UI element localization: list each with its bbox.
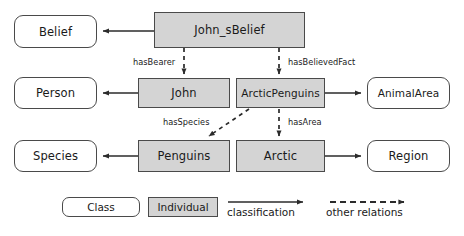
node-species-label: Species: [33, 149, 78, 163]
node-region[interactable]: Region: [367, 140, 450, 172]
node-animalarea-label: AnimalArea: [378, 87, 440, 99]
node-person[interactable]: Person: [14, 77, 97, 109]
node-belief-label: Belief: [39, 25, 72, 39]
node-arcticpenguins-label: ArcticPenguins: [241, 87, 320, 99]
edge-label-hasspecies: hasSpecies: [163, 117, 209, 127]
node-john[interactable]: John: [138, 78, 230, 108]
legend-individual-box: Individual: [148, 197, 218, 217]
edge-label-hasarea: hasArea: [288, 117, 322, 127]
node-arctic-label: Arctic: [264, 149, 297, 163]
node-john-label: John: [171, 86, 196, 100]
edge-label-hasbearer: hasBearer: [133, 57, 175, 67]
node-arcticpenguins[interactable]: ArcticPenguins: [236, 78, 325, 108]
node-john_sbelief[interactable]: John_sBelief: [154, 12, 305, 48]
edge-arcticpenguins-to-penguins: [209, 109, 249, 136]
node-region-label: Region: [389, 149, 429, 163]
node-penguins[interactable]: Penguins: [138, 140, 230, 172]
node-belief[interactable]: Belief: [14, 15, 97, 48]
diagram-canvas: Belief John_sBelief Person John ArcticPe…: [0, 0, 464, 236]
node-animalarea[interactable]: AnimalArea: [367, 77, 450, 109]
node-person-label: Person: [36, 86, 75, 100]
legend-other-relations-label: other relations: [326, 206, 403, 218]
legend-class-box: Class: [62, 197, 140, 217]
edge-label-hasbelievedfact: hasBelievedFact: [288, 57, 355, 67]
node-species[interactable]: Species: [14, 140, 97, 172]
legend-individual-label: Individual: [157, 201, 208, 213]
node-john_sbelief-label: John_sBelief: [194, 23, 264, 37]
node-arctic[interactable]: Arctic: [236, 140, 325, 172]
legend-class-label: Class: [87, 201, 115, 213]
legend-classification-label: classification: [227, 206, 295, 218]
node-penguins-label: Penguins: [158, 149, 211, 163]
